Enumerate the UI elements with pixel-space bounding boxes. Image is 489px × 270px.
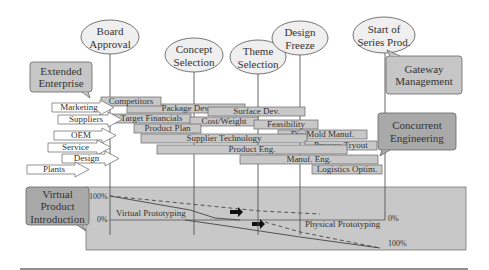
task-bar: Product Plan: [134, 123, 201, 133]
callout-label: Gateway: [404, 63, 444, 75]
milestone-concept-selection: ConceptSelection: [165, 38, 223, 72]
task-bar-label: Target Financials: [121, 113, 183, 123]
milestones: BoardApprovalConceptSelectionThemeSelect…: [81, 17, 415, 74]
milestone-start-series-prod: Start ofSeries Prod.: [353, 17, 415, 53]
left-100-percent-label: 100%: [89, 192, 108, 201]
callout-pointer: [77, 225, 86, 231]
partner-arrow: Plants: [27, 162, 89, 177]
partner-label: Suppliers: [69, 114, 103, 124]
task-bar: Product Eng.: [157, 144, 347, 154]
task-bar-label: Surface Dev.: [233, 106, 279, 116]
prototyping-panel-bg: [86, 187, 466, 250]
task-bar-label: Feasibility: [267, 119, 305, 129]
callout-label: Extended: [40, 65, 82, 77]
callout-label: Product: [40, 200, 74, 212]
callout-label: Engineering: [390, 132, 444, 144]
callout-concurrent-engineering: ConcurrentEngineering: [378, 113, 456, 156]
partner-label: Service: [62, 142, 89, 152]
virtual-prototyping-label: Virtual Prototyping: [116, 208, 186, 218]
callout-label: Virtual: [42, 188, 73, 200]
partner-label: Design: [74, 153, 100, 163]
callout-virtual-product-introduction: VirtualProductIntroduction: [26, 187, 89, 231]
partner-label: Plants: [43, 164, 66, 174]
partner-label: OEM: [71, 130, 91, 140]
milestone-board-approval: BoardApproval: [81, 20, 139, 54]
callout-pointer: [82, 92, 90, 98]
task-bar-label: Product Plan: [144, 123, 191, 133]
partner-arrow: Suppliers: [58, 112, 122, 127]
task-bar: Logistics Optim.: [312, 164, 382, 174]
left-0-percent-label: 0%: [97, 215, 108, 224]
task-bar-label: Cost/Weight: [202, 116, 247, 126]
milestone-label: Approval: [89, 38, 131, 50]
prototyping-panel: [86, 187, 466, 250]
milestone-label: Series Prod.: [357, 36, 410, 48]
task-bar: Feasibility: [254, 119, 318, 129]
partner-arrow: OEM: [54, 128, 116, 143]
product-development-process-diagram: Package Dev.CompetitorsSurface Dev.Targe…: [0, 0, 489, 270]
right-100-percent-label: 100%: [388, 239, 407, 248]
milestone-label: Design: [284, 26, 316, 38]
milestone-label: Theme: [243, 45, 274, 57]
callout-label: Concurrent: [392, 119, 441, 131]
physical-prototyping-label: Physical Prototyping: [305, 219, 381, 229]
callout-extended-enterprise: ExtendedEnterprise: [30, 62, 92, 98]
task-bar-label: Supplier Technology: [187, 133, 262, 143]
task-bar: Competitors: [101, 96, 161, 106]
callout-label: Introduction: [30, 213, 85, 225]
milestone-label: Freeze: [285, 39, 314, 51]
task-bar: Supplier Technology: [141, 133, 307, 143]
milestone-label: Selection: [238, 58, 279, 70]
milestone-label: Start of: [368, 23, 401, 35]
callout-gateway-management: GatewayManagement: [386, 50, 462, 94]
milestone-design-freeze: DesignFreeze: [272, 21, 328, 55]
task-bar: Target Financials: [112, 113, 191, 123]
milestone-label: Concept: [176, 43, 213, 55]
partner-label: Marketing: [60, 102, 98, 112]
partner-arrows: MarketingSuppliersOEMServiceDesignPlants: [27, 100, 122, 177]
task-bar-label: Logistics Optim.: [317, 164, 378, 174]
task-bar: Manuf. Eng.: [240, 154, 378, 164]
milestone-label: Selection: [174, 56, 215, 68]
task-bar-label: Competitors: [109, 96, 154, 106]
task-bar-label: Manuf. Eng.: [286, 154, 331, 164]
right-0-percent-label: 0%: [388, 214, 399, 223]
callout-label: Management: [395, 75, 452, 87]
task-bar-label: Package Dev.: [162, 103, 211, 113]
milestone-label: Board: [97, 25, 124, 37]
callout-label: Enterprise: [38, 77, 83, 89]
task-bar: Surface Dev.: [208, 106, 305, 116]
partner-arrow: Marketing: [52, 100, 114, 115]
task-bars: Package Dev.CompetitorsSurface Dev.Targe…: [101, 96, 382, 174]
task-bar-label: Product Eng.: [229, 144, 276, 154]
